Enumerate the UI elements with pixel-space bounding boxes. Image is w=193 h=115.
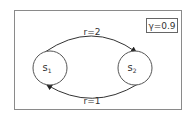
discount-box: γ=0.9 <box>147 19 178 33</box>
discount-label: γ=0.9 <box>148 21 175 31</box>
transition-label-s1-s2: r=2 <box>84 27 101 37</box>
transition-s1-s2 <box>45 36 136 52</box>
state-s2: s2 <box>118 51 152 85</box>
transition-label-s2-s1: r=1 <box>84 96 101 106</box>
state-s1: s1 <box>33 51 67 85</box>
mdp-diagram: γ=0.9 r=2 r=1 s1 s2 <box>0 0 193 115</box>
